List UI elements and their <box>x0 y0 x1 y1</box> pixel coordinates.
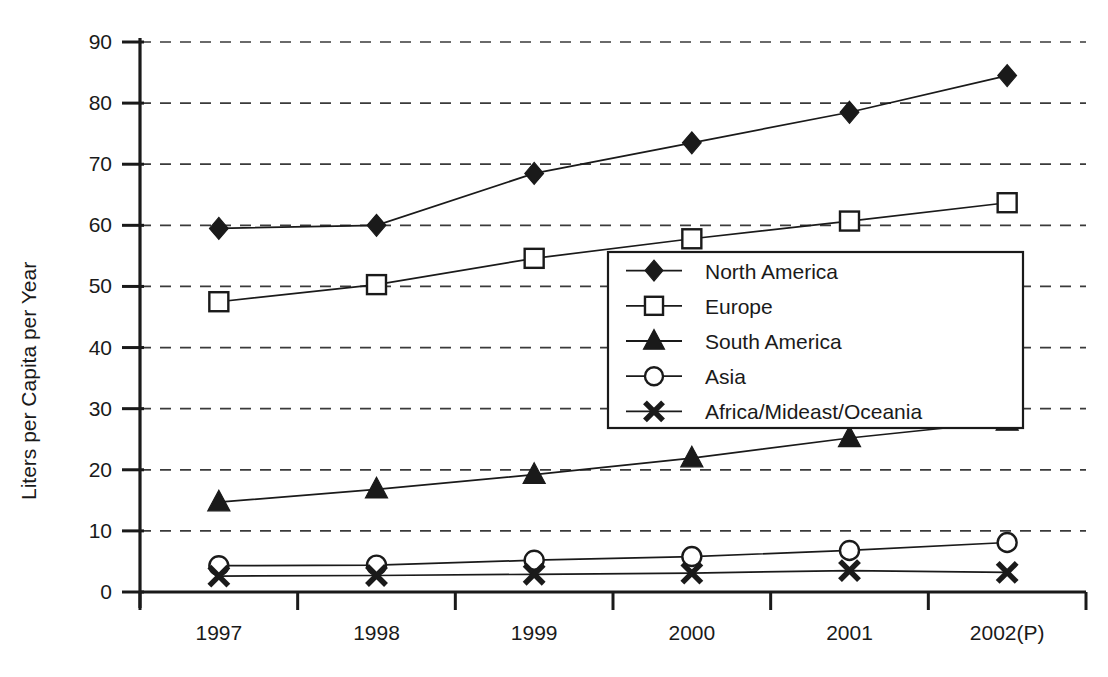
marker-filled-triangle-2-2 <box>523 463 545 484</box>
marker-open-square-1-0 <box>209 292 228 311</box>
marker-open-square-legend-1 <box>645 297 663 315</box>
x-tick-label-1999: 1999 <box>511 621 558 644</box>
legend: North AmericaEuropeSouth AmericaAsiaAfri… <box>608 252 1023 428</box>
marker-open-square-1-1 <box>367 275 386 294</box>
y-tick-label-60: 60 <box>89 213 112 236</box>
chart-canvas: 0102030405060708090 19971998199920002001… <box>0 0 1108 677</box>
marker-filled-diamond-0-5 <box>998 65 1017 87</box>
marker-filled-diamond-0-4 <box>840 101 859 123</box>
marker-open-circle-3-5 <box>998 533 1017 552</box>
marker-filled-triangle-2-0 <box>208 490 230 511</box>
x-tick-label-2001: 2001 <box>826 621 873 644</box>
marker-open-square-1-3 <box>682 229 701 248</box>
series-line-2 <box>219 422 1007 503</box>
marker-filled-triangle-2-1 <box>365 477 387 498</box>
y-tick-label-50: 50 <box>89 274 112 297</box>
y-tick-labels-group: 0102030405060708090 <box>89 30 112 603</box>
series-line-0 <box>219 76 1007 229</box>
legend-label-text: Africa/Mideast/Oceania <box>705 400 922 423</box>
x-tick-label-1997: 1997 <box>195 621 242 644</box>
x-tick-label-1998: 1998 <box>353 621 400 644</box>
y-tick-label-90: 90 <box>89 30 112 53</box>
marker-open-square-1-2 <box>525 249 544 268</box>
marker-open-circle-legend-3 <box>645 367 663 385</box>
y-tick-label-40: 40 <box>89 336 112 359</box>
y-axis-title: Liters per Capita per Year <box>17 262 40 500</box>
series-line-4 <box>219 571 1007 577</box>
marker-open-square-1-5 <box>998 193 1017 212</box>
y-tick-label-80: 80 <box>89 91 112 114</box>
line-chart: 0102030405060708090 19971998199920002001… <box>0 0 1108 677</box>
x-tick-labels-group: 199719981999200020012002(P) <box>195 621 1044 644</box>
series-asia <box>209 533 1016 575</box>
y-tick-label-10: 10 <box>89 519 112 542</box>
marker-filled-diamond-0-1 <box>367 214 386 236</box>
marker-filled-diamond-0-0 <box>209 217 228 239</box>
marker-filled-diamond-0-2 <box>525 162 544 184</box>
legend-label-text: Asia <box>705 365 746 388</box>
y-tick-label-70: 70 <box>89 152 112 175</box>
x-tick-label-2002(P): 2002(P) <box>970 621 1045 644</box>
marker-open-circle-3-4 <box>840 541 859 560</box>
marker-filled-diamond-0-3 <box>682 132 701 154</box>
y-tick-label-20: 20 <box>89 458 112 481</box>
x-tick-marks-group <box>140 592 1086 610</box>
legend-label-text: North America <box>705 260 838 283</box>
marker-open-square-1-4 <box>840 212 859 231</box>
y-tick-label-0: 0 <box>100 580 112 603</box>
legend-label-text: South America <box>705 330 842 353</box>
y-tick-label-30: 30 <box>89 397 112 420</box>
series-line-3 <box>219 543 1007 566</box>
legend-label-text: Europe <box>705 295 773 318</box>
series-north-america <box>209 65 1016 240</box>
x-tick-label-2000: 2000 <box>668 621 715 644</box>
